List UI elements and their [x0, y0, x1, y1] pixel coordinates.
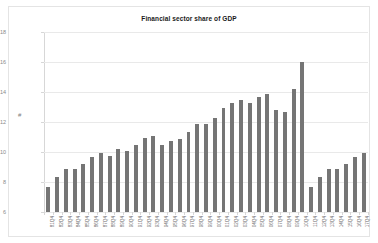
- x-axis-tick-mark: [237, 212, 238, 215]
- x-axis-tick-label: 93Q4: [155, 216, 160, 227]
- y-axis-tick-label: 14: [0, 89, 6, 95]
- bar: [213, 118, 217, 212]
- y-axis-title: #: [18, 112, 21, 118]
- x-axis-tick-label: 90Q4: [129, 216, 134, 227]
- x-axis-tick-label: 04Q4: [252, 216, 257, 227]
- x-axis-tick-mark: [315, 212, 316, 215]
- x-axis-tick-mark: [140, 212, 141, 215]
- x-axis-tick-label: 94Q4: [164, 216, 169, 227]
- bar: [344, 164, 348, 212]
- bar: [134, 145, 138, 212]
- x-axis-tick-mark: [44, 212, 45, 215]
- gridline: [44, 92, 368, 93]
- x-axis-tick-mark: [263, 212, 264, 215]
- bar: [46, 187, 50, 213]
- x-axis-tick-mark: [324, 212, 325, 215]
- x-axis-tick-label: 01Q4: [225, 216, 230, 227]
- bar: [55, 177, 59, 212]
- y-axis-tick-label: 16: [0, 59, 6, 65]
- x-axis-tick-label: 95Q4: [173, 216, 178, 227]
- bar: [90, 157, 94, 213]
- x-axis-tick-label: 92Q4: [147, 216, 152, 227]
- y-axis-tick-label: 18: [0, 29, 6, 35]
- x-axis-tick-mark: [105, 212, 106, 215]
- x-axis-tick-mark: [184, 212, 185, 215]
- bar: [362, 153, 366, 212]
- x-axis-tick-mark: [88, 212, 89, 215]
- bar: [309, 187, 313, 213]
- bar: [283, 112, 287, 212]
- x-axis-tick-label: 11Q4: [313, 216, 318, 227]
- y-axis-tick-mark: [41, 152, 44, 153]
- x-axis-tick-mark: [202, 212, 203, 215]
- bar: [335, 169, 339, 212]
- x-axis-tick-label: 88Q4: [111, 216, 116, 227]
- bar: [292, 89, 296, 212]
- x-axis-tick-label: 03Q4: [243, 216, 248, 227]
- x-axis-tick-mark: [307, 212, 308, 215]
- x-axis-tick-mark: [219, 212, 220, 215]
- y-axis-tick-label: 12: [0, 119, 6, 125]
- bar: [300, 62, 304, 212]
- x-axis-tick-label: 87Q4: [103, 216, 108, 227]
- bar: [195, 124, 199, 213]
- bar: [187, 132, 191, 212]
- y-axis-tick-mark: [41, 182, 44, 183]
- chart-title: Financial sector share of GDP: [9, 15, 369, 22]
- bar: [239, 100, 243, 213]
- x-axis-tick-label: 12Q4: [322, 216, 327, 227]
- bar: [318, 177, 322, 212]
- x-axis-tick-mark: [228, 212, 229, 215]
- x-axis-tick-label: 07Q4: [278, 216, 283, 227]
- x-axis-tick-mark: [245, 212, 246, 215]
- bar: [108, 156, 112, 212]
- x-axis-tick-label: 05Q4: [260, 216, 265, 227]
- y-axis-tick-label: 6: [0, 209, 6, 215]
- x-axis-tick-mark: [333, 212, 334, 215]
- bar: [64, 169, 68, 212]
- bar: [204, 124, 208, 213]
- bar: [178, 139, 182, 213]
- x-axis-tick-label: 96Q4: [182, 216, 187, 227]
- x-axis-tick-mark: [62, 212, 63, 215]
- y-axis-tick-label: 10: [0, 149, 6, 155]
- x-axis-tick-label: 13Q4: [330, 216, 335, 227]
- x-axis-tick-label: 84Q4: [76, 216, 81, 227]
- bar: [265, 94, 269, 212]
- bar: [81, 164, 85, 212]
- y-axis-tick-mark: [41, 32, 44, 33]
- bar: [274, 110, 278, 212]
- bar: [248, 103, 252, 212]
- x-axis-tick-mark: [254, 212, 255, 215]
- x-axis-tick-label: 00Q4: [217, 216, 222, 227]
- x-axis-tick-mark: [342, 212, 343, 215]
- x-axis-tick-label: 98Q4: [199, 216, 204, 227]
- bar: [169, 141, 173, 212]
- x-axis-tick-label: 10Q4: [304, 216, 309, 227]
- x-axis-tick-label: 17Q4: [365, 216, 370, 227]
- x-axis-tick-mark: [175, 212, 176, 215]
- x-axis-tick-label: 81Q4: [50, 216, 55, 227]
- x-axis-tick-label: 85Q4: [85, 216, 90, 227]
- x-axis-tick-label: 86Q4: [94, 216, 99, 227]
- x-axis-tick-label: 14Q4: [339, 216, 344, 227]
- x-axis-tick-label: 89Q4: [120, 216, 125, 227]
- bar: [160, 145, 164, 213]
- x-axis-tick-mark: [114, 212, 115, 215]
- x-axis-tick-label: 82Q4: [59, 216, 64, 227]
- x-axis-tick-mark: [298, 212, 299, 215]
- x-axis-tick-mark: [167, 212, 168, 215]
- x-axis-tick-label: 15Q4: [348, 216, 353, 227]
- x-axis-tick-mark: [280, 212, 281, 215]
- bar: [257, 97, 261, 212]
- x-axis-tick-label: 91Q4: [138, 216, 143, 227]
- y-axis-tick-label: 8: [0, 179, 6, 185]
- x-axis-tick-mark: [79, 212, 80, 215]
- x-axis-tick-mark: [53, 212, 54, 215]
- x-axis-tick-label: 08Q4: [287, 216, 292, 227]
- x-axis-tick-mark: [210, 212, 211, 215]
- x-axis-tick-mark: [289, 212, 290, 215]
- gridline: [44, 62, 368, 63]
- bar: [230, 103, 234, 213]
- gridline: [44, 212, 368, 213]
